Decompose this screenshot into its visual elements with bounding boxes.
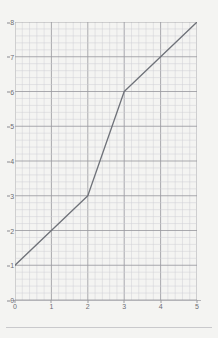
- y-axis-label-8: 8: [7, 19, 14, 26]
- x-axis-label-3: 3: [122, 303, 126, 310]
- page-bottom-rule: [6, 327, 212, 328]
- y-axis-label-text: 2: [10, 227, 14, 234]
- y-axis-label-text: 1: [10, 262, 14, 269]
- y-axis-label-text: 3: [10, 192, 14, 199]
- chart-page: 012345678 012345: [0, 0, 218, 338]
- x-axis-label-0: 0: [13, 303, 17, 310]
- x-axis-label-1: 1: [49, 303, 53, 310]
- y-axis-label-1: 1: [7, 262, 14, 269]
- y-axis-label-text: 4: [10, 158, 14, 165]
- y-axis-label-2: 2: [7, 227, 14, 234]
- x-axis-baseline: [11, 300, 201, 301]
- y-axis-label-6: 6: [7, 88, 14, 95]
- y-axis-label-text: 6: [10, 88, 14, 95]
- y-axis-label-7: 7: [7, 53, 14, 60]
- y-axis-label-5: 5: [7, 123, 14, 130]
- x-axis-label-5: 5: [195, 303, 199, 310]
- chart-plot-area: 012345678 012345: [15, 22, 197, 300]
- y-axis-label-text: 8: [10, 19, 14, 26]
- y-axis-label-4: 4: [7, 158, 14, 165]
- y-axis-label-text: 7: [10, 53, 14, 60]
- y-axis-label-3: 3: [7, 192, 14, 199]
- y-axis-label-text: 5: [10, 123, 14, 130]
- data-line: [15, 22, 197, 300]
- x-axis-label-4: 4: [159, 303, 163, 310]
- x-axis-label-2: 2: [86, 303, 90, 310]
